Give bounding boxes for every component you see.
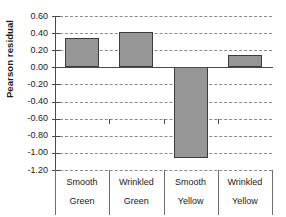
category-label-line-2: Green [55,196,109,206]
bar [119,32,153,67]
plot-area [55,16,272,170]
y-axis-tick-label: -0.40 [14,97,48,106]
y-axis-tick-mark [52,16,60,17]
y-axis-tick-label: 0.00 [14,63,48,72]
y-axis-tick-label: -1.00 [14,148,48,157]
y-axis-tick-mark [52,33,60,34]
y-axis-tick-label: 0.60 [14,12,48,21]
y-axis-tick-label: 0.20 [14,46,48,55]
gridline [55,136,272,137]
category-label-cell: WrinkledGreen [109,170,163,215]
category-label-cell: SmoothGreen [55,170,109,215]
gridline [55,84,272,85]
bar [174,67,208,158]
y-axis-tick-label: -0.60 [14,114,48,123]
x-axis-category-labels: SmoothGreenWrinkledGreenSmoothYellowWrin… [55,170,273,215]
category-label-line-2: Yellow [218,196,272,206]
y-axis-tick-mark [52,102,60,103]
gridline [55,16,272,17]
gridline [55,102,272,103]
x-axis-tick-mark [109,119,110,124]
gridline [55,153,272,154]
y-axis-tick-mark [52,136,60,137]
y-axis-tick-labels: 0.600.400.200.00-0.20-0.40-0.60-0.80-1.0… [14,0,48,217]
zero-axis-line [55,67,273,68]
y-axis-line [55,16,56,171]
category-divider [272,170,273,215]
category-label-line-1: Smooth [164,177,218,187]
category-label-line-1: Wrinkled [109,177,163,187]
y-axis-tick-label: -0.20 [14,80,48,89]
category-label-line-2: Green [109,196,163,206]
y-axis-tick-mark [52,50,60,51]
y-axis-tick-label: -1.20 [14,166,48,175]
bar-chart: Pearson residual 0.600.400.200.00-0.20-0… [0,0,286,217]
category-label-line-2: Yellow [164,196,218,206]
gridline [55,33,272,34]
category-label-cell: WrinkledYellow [218,170,272,215]
bar [65,38,99,67]
y-axis-tick-label: -0.80 [14,131,48,140]
y-axis-tick-label: 0.40 [14,29,48,38]
y-axis-tick-mark [52,119,60,120]
y-axis-tick-mark [52,84,60,85]
y-axis-tick-mark [52,153,60,154]
x-axis-tick-mark [164,119,165,124]
category-label-line-1: Smooth [55,177,109,187]
category-label-line-1: Wrinkled [218,177,272,187]
x-axis-tick-mark [218,119,219,124]
category-label-cell: SmoothYellow [164,170,218,215]
bar [228,55,262,67]
